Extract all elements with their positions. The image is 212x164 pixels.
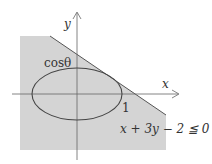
diagram-canvas: y x cosθ 1 x + 3y − 2 ≦ 0 [0, 0, 212, 164]
ellipse-x-intercept-label: 1 [122, 101, 130, 115]
y-axis-label: y [63, 17, 71, 31]
inequality-label: x + 3y − 2 ≦ 0 [120, 122, 210, 136]
ellipse-y-intercept-label: cosθ [44, 56, 71, 70]
x-axis-label: x [162, 77, 169, 91]
